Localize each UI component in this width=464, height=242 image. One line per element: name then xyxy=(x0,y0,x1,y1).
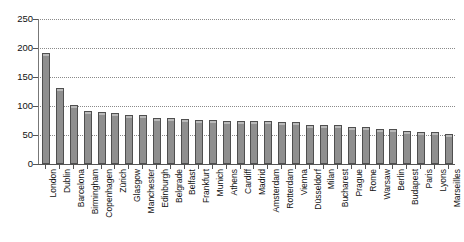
x-axis-label: Madrid xyxy=(257,169,267,195)
x-axis-label: Prague xyxy=(354,169,364,196)
bar xyxy=(125,115,133,164)
x-axis-label-text: Rotterdam xyxy=(285,169,295,209)
x-axis-label: Düsseldorf xyxy=(313,169,323,210)
x-axis-label: Berlin xyxy=(396,169,406,191)
plot-area xyxy=(38,19,455,164)
gridline-250 xyxy=(38,19,455,20)
bar-highlight xyxy=(404,132,410,134)
bar xyxy=(431,132,439,164)
bar-highlight xyxy=(182,120,188,122)
bar xyxy=(98,112,106,164)
y-axis-label-150: 150 xyxy=(3,72,33,81)
x-axis-label-text: Frankfurt xyxy=(201,169,211,203)
x-axis-label: Amsterdam xyxy=(271,169,281,212)
x-axis-label: Zürich xyxy=(118,169,128,193)
bar-highlight xyxy=(265,122,271,124)
x-axis-label: Vienna xyxy=(299,169,309,195)
x-axis-label-text: Bucharest xyxy=(340,169,350,207)
x-axis-label-text: Düsseldorf xyxy=(313,169,323,210)
x-axis-label-text: Manchester xyxy=(146,169,156,213)
bar-highlight xyxy=(363,128,369,130)
bar-highlight xyxy=(446,135,452,137)
bar xyxy=(306,125,314,164)
y-axis-label-250: 250 xyxy=(3,14,33,23)
x-axis-label-text: Rome xyxy=(368,169,378,192)
bar xyxy=(237,121,245,165)
x-tick xyxy=(337,164,338,169)
x-tick xyxy=(281,164,282,169)
x-axis-label-text: Budapest xyxy=(410,169,420,205)
x-axis-label-text: Athens xyxy=(229,169,239,195)
x-axis-label-text: Belfast xyxy=(187,169,197,195)
bar-highlight xyxy=(210,121,216,123)
x-axis-label: Dublin xyxy=(62,169,72,193)
x-tick xyxy=(379,164,380,169)
gridline-200 xyxy=(38,48,455,49)
x-axis-label: Rome xyxy=(368,169,378,192)
x-tick xyxy=(142,164,143,169)
y-axis-label-0: 0 xyxy=(3,159,33,168)
bar xyxy=(292,122,300,164)
bar xyxy=(42,53,50,164)
x-axis-label: Bucharest xyxy=(340,169,350,207)
bar-highlight xyxy=(432,133,438,135)
bar-highlight xyxy=(85,112,91,114)
x-axis-label-text: Paris xyxy=(424,169,434,188)
y-axis-label-50: 50 xyxy=(3,130,33,139)
x-axis-label-text: Glasgow xyxy=(132,169,142,202)
y-axis-label-200: 200 xyxy=(3,43,33,52)
x-tick xyxy=(406,164,407,169)
x-tick xyxy=(101,164,102,169)
bar xyxy=(56,88,64,164)
bar-highlight xyxy=(126,116,132,118)
x-tick xyxy=(420,164,421,169)
x-axis-label-text: London xyxy=(48,169,58,197)
x-axis-label-text: Marseilles xyxy=(452,169,462,207)
bar-highlight xyxy=(377,130,383,132)
bar xyxy=(209,120,217,164)
x-axis-label: Edinburgh xyxy=(160,169,170,208)
x-axis-label-text: Vienna xyxy=(299,169,309,195)
bar xyxy=(250,121,258,165)
x-axis-label-text: Dublin xyxy=(62,169,72,193)
bar-highlight xyxy=(418,133,424,135)
x-axis-label-text: Cardiff xyxy=(243,169,253,194)
x-axis-label: Frankfurt xyxy=(201,169,211,203)
x-tick xyxy=(240,164,241,169)
x-axis-label: Cardiff xyxy=(243,169,253,194)
x-axis-label-text: Warsaw xyxy=(382,169,392,199)
bar-highlight xyxy=(349,128,355,130)
y-tick-250 xyxy=(33,19,38,20)
x-axis-label-text: Munich xyxy=(215,169,225,196)
x-axis-label: Marseilles xyxy=(452,169,462,207)
bar xyxy=(348,127,356,164)
bar xyxy=(376,129,384,164)
bar xyxy=(389,129,397,164)
x-axis-label-text: Milan xyxy=(326,169,336,189)
x-axis-label: Paris xyxy=(424,169,434,188)
bar-highlight xyxy=(321,126,327,128)
x-tick xyxy=(59,164,60,169)
y-tick-200 xyxy=(33,48,38,49)
bar xyxy=(320,125,328,164)
bar xyxy=(181,119,189,164)
bar xyxy=(403,131,411,164)
x-axis-label-text: Amsterdam xyxy=(271,169,281,212)
x-axis-label-text: Birmingham xyxy=(90,169,100,214)
x-axis-label-text: Edinburgh xyxy=(160,169,170,208)
x-axis-label: Munich xyxy=(215,169,225,196)
gridline-150 xyxy=(38,77,455,78)
bar-highlight xyxy=(196,121,202,123)
x-tick xyxy=(309,164,310,169)
bar xyxy=(70,105,78,164)
bar-chart: 050100150200250 LondonDublinBarcelonaBir… xyxy=(0,0,464,242)
bar xyxy=(445,134,453,164)
x-tick xyxy=(253,164,254,169)
x-axis-label: Glasgow xyxy=(132,169,142,202)
x-axis-label: Rotterdam xyxy=(285,169,295,209)
bar-highlight xyxy=(71,106,77,108)
y-axis-label-100: 100 xyxy=(3,101,33,110)
x-tick xyxy=(365,164,366,169)
x-tick xyxy=(45,164,46,169)
x-tick xyxy=(392,164,393,169)
